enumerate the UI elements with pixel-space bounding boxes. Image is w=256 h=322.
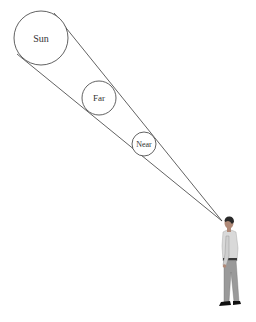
sun-label: Sun [33, 33, 49, 44]
sun-circle-group: Sun [14, 11, 68, 65]
cone-upper-edge [54, 13, 222, 221]
cone-lower-edge [17, 54, 222, 221]
angular-size-diagram: Sun Far Near [0, 0, 256, 322]
far-circle-group: Far [82, 81, 116, 115]
far-label: Far [93, 93, 105, 103]
near-label: Near [136, 140, 152, 149]
person-observer-icon [219, 216, 241, 306]
near-circle-group: Near [132, 132, 156, 156]
